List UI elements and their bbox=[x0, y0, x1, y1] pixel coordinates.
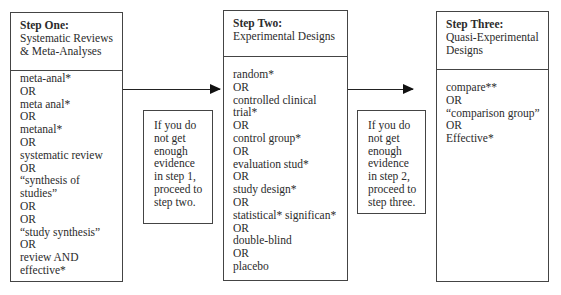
note-step-one-fallback: If you do not get enough evidence in ste… bbox=[143, 110, 213, 224]
search-term: “synthesis of bbox=[20, 174, 122, 187]
note-line: If you do bbox=[368, 119, 425, 132]
search-term: “study synthesis” bbox=[20, 226, 122, 239]
step-three-box: Step Three: Quasi-Experimental Designs c… bbox=[436, 11, 549, 282]
step-one-search-terms: meta-anal* OR meta anal* OR metanal* OR … bbox=[11, 71, 122, 277]
note-line: evidence bbox=[368, 157, 425, 170]
boolean-operator: OR bbox=[20, 110, 122, 123]
boolean-operator: OR bbox=[20, 136, 122, 149]
note-line: step three. bbox=[368, 196, 425, 209]
boolean-operator: OR bbox=[233, 145, 347, 158]
note-line: not get bbox=[368, 132, 425, 145]
search-term: effective* bbox=[20, 264, 122, 277]
note-line: not get bbox=[154, 132, 212, 145]
boolean-operator: OR bbox=[446, 119, 548, 132]
boolean-operator: OR bbox=[233, 119, 347, 132]
step-one-box: Step One: Systematic Reviews & Meta-Anal… bbox=[10, 12, 123, 282]
search-term: review AND bbox=[20, 251, 122, 264]
boolean-operator: OR bbox=[20, 162, 122, 175]
boolean-operator: OR bbox=[233, 247, 347, 260]
step-three-search-terms: compare** OR “comparison group” OR Effec… bbox=[437, 70, 548, 145]
search-term: trial* bbox=[233, 106, 347, 119]
step-one-subtitle-line: & Meta-Analyses bbox=[20, 45, 122, 58]
boolean-operator: OR bbox=[233, 222, 347, 235]
boolean-operator: OR bbox=[20, 238, 122, 251]
step-one-header: Step One: Systematic Reviews & Meta-Anal… bbox=[11, 13, 122, 71]
step-two-header: Step Two: Experimental Designs bbox=[224, 11, 347, 57]
search-term: controlled clinical bbox=[233, 94, 347, 107]
boolean-operator: OR bbox=[233, 170, 347, 183]
note-line: enough bbox=[154, 145, 212, 158]
search-term: double-blind bbox=[233, 234, 347, 247]
boolean-operator: OR bbox=[20, 200, 122, 213]
step-three-subtitle-line: Designs bbox=[446, 44, 548, 57]
search-term: studies” bbox=[20, 187, 122, 200]
search-term: study design* bbox=[233, 183, 347, 196]
search-term: random* bbox=[233, 68, 347, 81]
search-term: “comparison group” bbox=[446, 107, 548, 120]
note-step-two-fallback: If you do not get enough evidence in ste… bbox=[357, 110, 426, 214]
note-line: enough bbox=[368, 145, 425, 158]
search-term: metanal* bbox=[20, 123, 122, 136]
step-three-header: Step Three: Quasi-Experimental Designs bbox=[437, 12, 548, 70]
boolean-operator: OR bbox=[446, 94, 548, 107]
step-two-subtitle-line: Experimental Designs bbox=[233, 30, 347, 43]
boolean-operator: OR bbox=[20, 213, 122, 226]
note-line: evidence bbox=[154, 157, 212, 170]
search-term: meta-anal* bbox=[20, 72, 122, 85]
step-three-subtitle-line: Quasi-Experimental bbox=[446, 31, 548, 44]
step-two-search-terms: random* OR controlled clinical trial* OR… bbox=[224, 57, 347, 273]
search-term: systematic review bbox=[20, 149, 122, 162]
arrow-step-one-to-two bbox=[123, 89, 220, 90]
note-line: proceed to bbox=[368, 183, 425, 196]
search-term: statistical* significan* bbox=[233, 209, 347, 222]
search-term: evaluation stud* bbox=[233, 158, 347, 171]
step-one-title: Step One: bbox=[20, 19, 122, 32]
note-line: in step 2, bbox=[368, 170, 425, 183]
arrowhead-icon bbox=[210, 84, 221, 94]
search-term: control group* bbox=[233, 132, 347, 145]
arrow-step-two-to-three bbox=[348, 89, 413, 90]
boolean-operator: OR bbox=[233, 81, 347, 94]
note-line: step two. bbox=[154, 196, 212, 209]
search-term: compare** bbox=[446, 81, 548, 94]
arrowhead-icon bbox=[403, 84, 414, 94]
boolean-operator: OR bbox=[233, 196, 347, 209]
note-line: proceed to bbox=[154, 183, 212, 196]
step-one-subtitle-line: Systematic Reviews bbox=[20, 32, 122, 45]
step-three-title: Step Three: bbox=[446, 18, 548, 31]
boolean-operator: OR bbox=[20, 85, 122, 98]
note-line: If you do bbox=[154, 119, 212, 132]
search-term: meta anal* bbox=[20, 98, 122, 111]
search-term: Effective* bbox=[446, 132, 548, 145]
note-line: in step 1, bbox=[154, 170, 212, 183]
search-term: placebo bbox=[233, 260, 347, 273]
step-two-title: Step Two: bbox=[233, 17, 347, 30]
step-two-box: Step Two: Experimental Designs random* O… bbox=[223, 10, 348, 281]
